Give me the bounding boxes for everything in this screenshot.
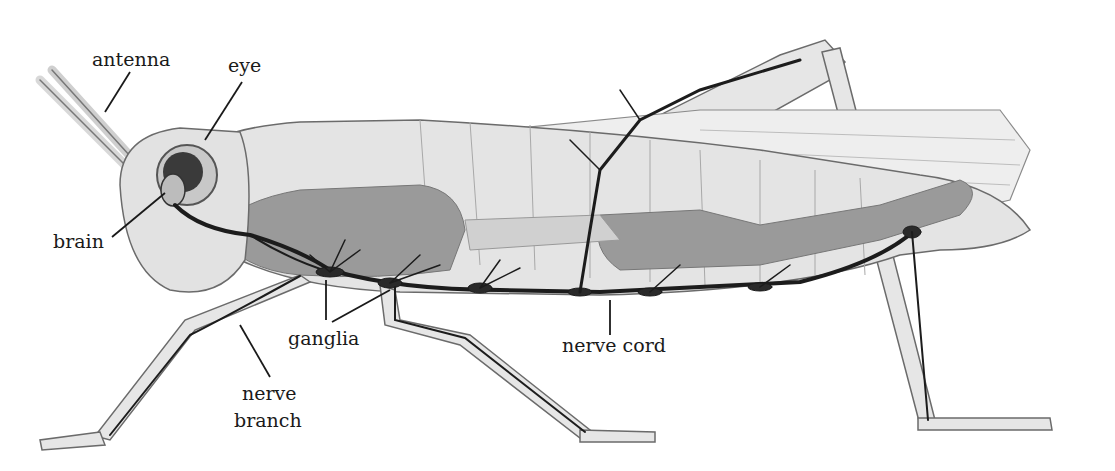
brain-shape (161, 174, 185, 206)
label-nerve-branch-line2: branch (234, 409, 302, 431)
label-nerve-cord: nerve cord (562, 334, 666, 356)
label-eye: eye (228, 54, 261, 76)
label-brain: brain (53, 230, 104, 252)
label-antenna: antenna (92, 48, 170, 70)
label-ganglia: ganglia (288, 327, 359, 349)
grasshopper-diagram: antenna eye brain ganglia nerve branch n… (0, 0, 1115, 471)
legs (40, 275, 655, 450)
label-nerve-branch-line1: nerve (242, 382, 297, 404)
